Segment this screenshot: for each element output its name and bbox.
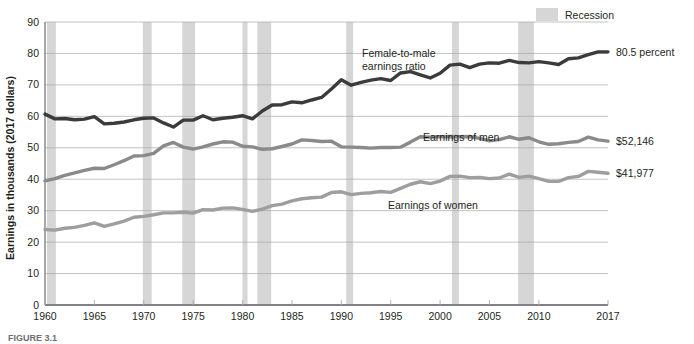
series-annotation: Female-to-maleearnings ratio [362,47,436,72]
recession-legend-label: Recession [565,9,614,21]
y-tick-labels: 0102030405060708090 [27,16,39,311]
recession-legend-swatch [536,8,558,21]
y-tick-label: 90 [27,16,39,28]
y-tick-label: 70 [27,78,39,90]
series-end-label: 80.5 percent [616,46,674,58]
series-annotations: Female-to-maleearnings ratioEarnings of … [362,47,500,211]
earnings-line-chart: 0102030405060708090 19601965197019751980… [0,0,694,344]
series-annotation: Earnings of women [388,199,478,211]
x-tick-label: 1990 [330,310,354,322]
x-tick-label: 1985 [280,310,304,322]
y-axis-title-text: Earnings in thousands (2017 dollars) [4,76,16,260]
series-annotation: Earnings of men [423,131,500,143]
recession-band [257,22,271,305]
x-tick-label: 1975 [181,310,205,322]
x-tick-label: 1970 [132,310,156,322]
x-tick-label: 1960 [33,310,57,322]
x-tick-labels: 1960196519701975198019851990199520002005… [33,310,620,322]
y-tick-label: 60 [27,110,39,122]
recession-band [182,22,195,305]
x-tick-label: 1995 [379,310,403,322]
x-tick-label: 2005 [478,310,502,322]
end-labels: 80.5 percent$52,146$41,977 [616,46,674,179]
x-tick-label: 2000 [428,310,452,322]
y-tick-label: 50 [27,141,39,153]
x-tick-label: 1965 [83,310,107,322]
series-end-label: $41,977 [616,167,654,179]
y-tick-label: 10 [27,267,39,279]
y-tick-label: 40 [27,173,39,185]
y-tick-label: 30 [27,204,39,216]
recession-band [243,22,248,305]
recession-band [47,22,56,305]
figure-container: 0102030405060708090 19601965197019751980… [0,0,694,344]
recession-band [143,22,152,305]
series-end-label: $52,146 [616,135,654,147]
y-axis-title: Earnings in thousands (2017 dollars) [4,76,16,260]
y-tick-label: 20 [27,236,39,248]
legend: Recession [536,8,614,21]
y-tick-label: 80 [27,47,39,59]
x-tick-label: 2010 [527,310,551,322]
recession-band [346,22,353,305]
y-tick-label: 0 [33,299,39,311]
x-tick-label: 2017 [596,310,620,322]
x-tick-label: 1980 [231,310,255,322]
figure-caption: FIGURE 3.1 [8,333,308,344]
